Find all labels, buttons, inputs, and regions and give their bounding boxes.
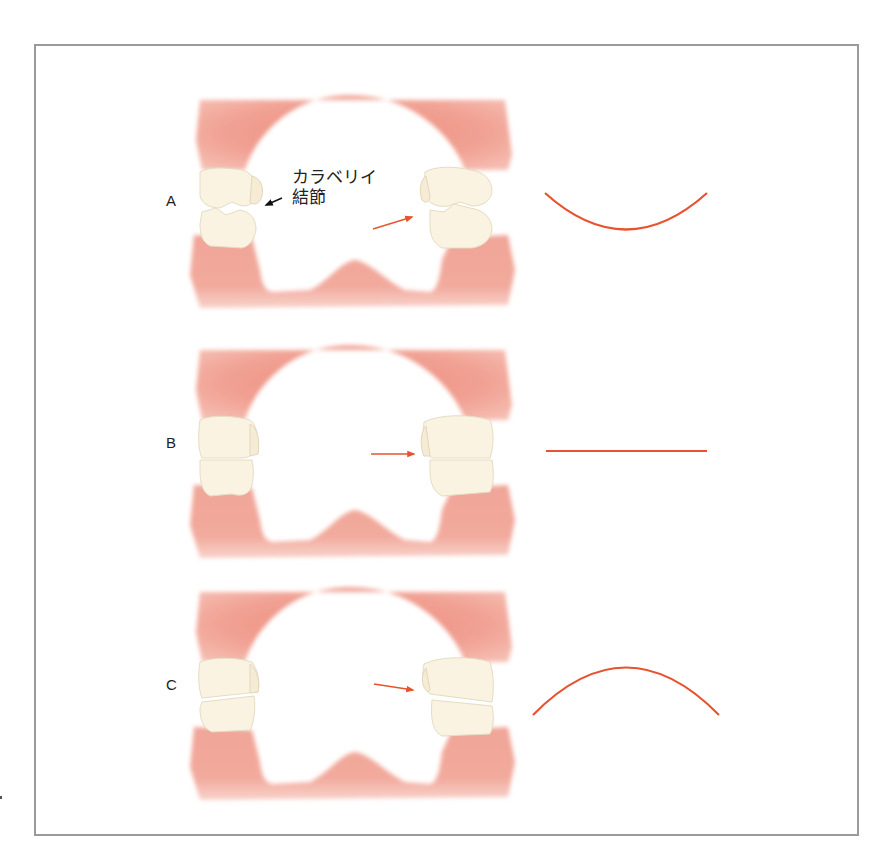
- panel-label-b: B: [166, 434, 176, 451]
- carabelli-annotation: カラベリイ 結節: [292, 167, 377, 207]
- panel-c: C: [166, 587, 515, 800]
- occlusion-diagram: A B C: [0, 0, 885, 866]
- annotation-line-2: 結節: [292, 187, 377, 207]
- arrow-c-icon: [374, 684, 413, 690]
- curve-a-smile: [545, 193, 707, 230]
- annotation-line-1: カラベリイ: [292, 167, 377, 187]
- annotation-arrow-icon: [266, 198, 282, 205]
- curve-c-frown: [533, 668, 719, 716]
- panel-label-a: A: [166, 192, 176, 209]
- arrow-a-icon: [373, 217, 412, 229]
- panel-b: B: [166, 345, 515, 558]
- panel-label-c: C: [166, 676, 177, 693]
